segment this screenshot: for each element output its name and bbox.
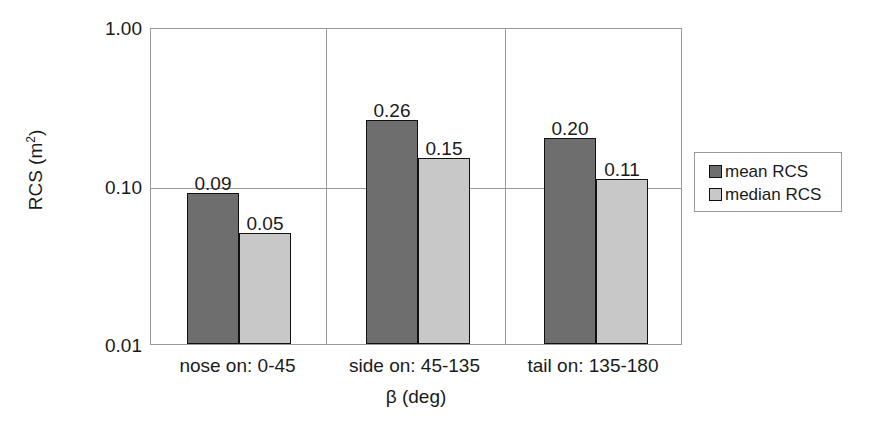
bar-mean-nose-on[interactable] [187, 193, 239, 344]
rcs-bar-chart-figure: 1.00 0.10 0.01 RCS (m2) 0.09 0.05 0.26 0… [0, 0, 877, 428]
y-axis-title-tail: ) [25, 130, 46, 136]
bar-value-label-median-side-on: 0.15 [418, 139, 470, 158]
legend-item-median-rcs[interactable]: median RCS [709, 183, 841, 206]
bar-mean-tail-on[interactable] [544, 138, 596, 344]
y-axis-tick-0.10: 0.10 [80, 178, 142, 197]
group-separator-1 [326, 29, 327, 344]
y-axis-title-text: RCS (m [25, 143, 46, 211]
bar-value-label-median-nose-on: 0.05 [239, 214, 291, 233]
bar-mean-side-on[interactable] [366, 120, 418, 344]
x-axis-title: β (deg) [150, 387, 682, 407]
group-separator-2 [505, 29, 506, 344]
bar-median-tail-on[interactable] [596, 179, 648, 344]
y-axis-tick-1.00: 1.00 [80, 19, 142, 38]
bar-value-label-mean-side-on: 0.26 [366, 101, 418, 120]
legend-label-mean: mean RCS [725, 163, 808, 181]
x-axis-tick-nose-on: nose on: 0-45 [150, 356, 325, 376]
x-axis-tick-side-on: side on: 45-135 [325, 356, 504, 376]
legend-label-median: median RCS [725, 186, 821, 204]
y-axis-title: RCS (m2) [26, 90, 46, 250]
bar-value-label-mean-nose-on: 0.09 [187, 174, 239, 193]
legend-swatch-icon-mean [709, 165, 722, 178]
bar-median-nose-on[interactable] [239, 233, 291, 344]
bar-median-side-on[interactable] [418, 158, 470, 344]
bar-value-label-median-tail-on: 0.11 [596, 160, 648, 179]
y-axis-tick-0.01: 0.01 [80, 336, 142, 355]
legend: mean RCS median RCS [694, 152, 842, 212]
x-axis-tick-tail-on: tail on: 135-180 [504, 356, 682, 376]
plot-area: 0.09 0.05 0.26 0.15 0.20 0.11 [150, 28, 682, 345]
y-axis-title-exponent: 2 [24, 136, 38, 143]
legend-item-mean-rcs[interactable]: mean RCS [709, 160, 841, 183]
bar-value-label-mean-tail-on: 0.20 [544, 119, 596, 138]
legend-swatch-icon-median [709, 188, 722, 201]
y-axis-tick-labels: 1.00 0.10 0.01 [72, 0, 142, 428]
